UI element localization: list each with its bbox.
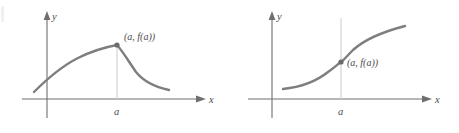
point-label: (a, f(a)): [347, 57, 379, 69]
x-axis-arrowhead: [196, 96, 206, 103]
panel-right-vertical-tangent-graph: x y a (a, f(a)): [230, 0, 459, 133]
panel-left-corner-graph: x y a (a, f(a)): [0, 0, 230, 133]
y-axis-arrowhead: [44, 11, 51, 20]
right-graph-svg: x y a (a, f(a)): [230, 0, 459, 133]
y-axis-label: y: [276, 11, 282, 22]
left-graph-svg: x y a (a, f(a)): [0, 0, 230, 133]
x-axis-label: x: [208, 94, 214, 105]
y-axis-arrowhead: [269, 11, 276, 20]
function-curve: [283, 26, 405, 89]
x-axis-arrowhead: [422, 96, 432, 103]
tick-label-a: a: [114, 106, 119, 117]
point-dot: [114, 42, 119, 47]
point-dot: [338, 59, 343, 64]
point-label: (a, f(a)): [124, 31, 156, 43]
y-axis-label: y: [51, 11, 57, 22]
function-curve: [34, 45, 169, 92]
figure-root: x y a (a, f(a)) x y a (a, f(a)): [0, 0, 459, 133]
x-axis-label: x: [434, 94, 440, 105]
tick-label-a: a: [338, 106, 343, 117]
